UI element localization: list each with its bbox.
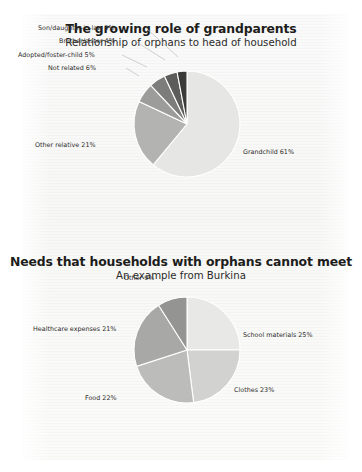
pie-slice-label: Grandchild 61% — [243, 148, 294, 156]
chart2-subtitle: An example from Burkina — [0, 270, 362, 282]
pie-slice-label: Not related 6% — [48, 64, 96, 72]
pie-slice-label: Food 22% — [85, 394, 117, 402]
page-canvas: The growing role of grandparents Relatio… — [0, 0, 362, 472]
chart2-pie — [0, 282, 362, 457]
pie-slice — [187, 297, 240, 350]
chart1-subtitle: Relationship of orphans to head of house… — [0, 37, 362, 49]
pie-slice-label: Other relative 21% — [35, 141, 96, 149]
chart1-plot-area: Grandchild 61%Other relative 21%Not rela… — [0, 49, 362, 234]
pie-slice-label: Other 9% — [124, 274, 154, 282]
pie-slice — [187, 350, 240, 403]
chart-block-grandparents: The growing role of grandparents Relatio… — [0, 22, 362, 252]
pie-slice-label: Healthcare expenses 21% — [33, 325, 116, 333]
label-leader-line — [126, 68, 139, 76]
chart-block-needs: Needs that households with orphans canno… — [0, 255, 362, 470]
pie-slice-label: Son/daughter-in-law 3% — [38, 24, 114, 32]
pie-slice-label: Adopted/foster-child 5% — [18, 51, 95, 59]
pie-slice-label: Brother/sister 4% — [59, 37, 115, 45]
pie-slice-label: School materials 25% — [243, 331, 313, 339]
label-leader-line — [122, 55, 147, 67]
pie-slice-label: Clothes 23% — [234, 386, 274, 394]
chart2-title: Needs that households with orphans canno… — [0, 255, 362, 269]
chart2-plot-area: School materials 25%Clothes 23%Food 22%H… — [0, 282, 362, 457]
